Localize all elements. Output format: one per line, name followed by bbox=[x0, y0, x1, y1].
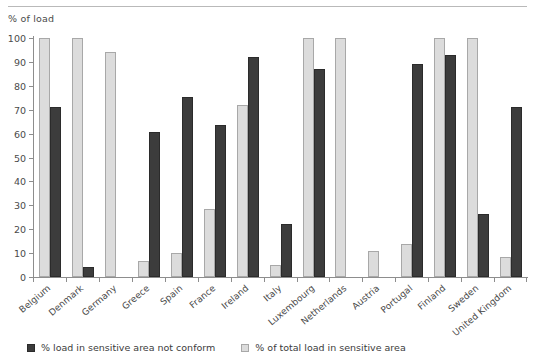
bar-total-load-sensitive-area bbox=[72, 38, 83, 277]
legend-label: % of total load in sensitive area bbox=[255, 342, 405, 353]
bar-load-not-conform bbox=[412, 64, 423, 277]
bar-total-load-sensitive-area bbox=[105, 52, 116, 277]
bar-load-not-conform bbox=[445, 55, 456, 277]
bar-total-load-sensitive-area bbox=[434, 38, 445, 277]
legend-swatch-dark bbox=[27, 344, 35, 352]
bar-group bbox=[132, 38, 165, 277]
bar-group bbox=[33, 38, 66, 277]
bar-group bbox=[165, 38, 198, 277]
bar-load-not-conform bbox=[182, 97, 193, 277]
bar-total-load-sensitive-area bbox=[237, 105, 248, 277]
bar-groups bbox=[33, 38, 527, 277]
bar-group bbox=[461, 38, 494, 277]
bar-load-not-conform bbox=[83, 267, 94, 277]
bar-group bbox=[297, 38, 330, 277]
bar-load-not-conform bbox=[511, 107, 522, 277]
bar-total-load-sensitive-area bbox=[303, 38, 314, 277]
bar-chart: % of load 1009080706050403020100 Belgium… bbox=[0, 0, 535, 361]
bar-total-load-sensitive-area bbox=[138, 261, 149, 277]
x-axis-label-cell: Greece bbox=[132, 280, 165, 335]
bar-total-load-sensitive-area bbox=[467, 38, 478, 277]
bar-total-load-sensitive-area bbox=[204, 209, 215, 277]
legend-label: % load in sensitive area not conform bbox=[41, 342, 215, 353]
bar-total-load-sensitive-area bbox=[335, 38, 346, 277]
x-axis-line bbox=[33, 277, 528, 278]
legend-item: % of total load in sensitive area bbox=[241, 342, 405, 353]
bar-total-load-sensitive-area bbox=[171, 253, 182, 277]
bar-load-not-conform bbox=[50, 107, 61, 277]
x-axis-label: Italy bbox=[261, 283, 283, 304]
y-axis-title: % of load bbox=[8, 13, 54, 24]
bar-load-not-conform bbox=[248, 57, 259, 277]
bar-group bbox=[428, 38, 461, 277]
legend-item: % load in sensitive area not conform bbox=[27, 342, 215, 353]
bar-load-not-conform bbox=[149, 132, 160, 277]
bar-group bbox=[264, 38, 297, 277]
plot-area: 1009080706050403020100 bbox=[33, 38, 527, 277]
bar-total-load-sensitive-area bbox=[500, 257, 511, 277]
bar-group bbox=[231, 38, 264, 277]
bar-load-not-conform bbox=[478, 214, 489, 277]
x-axis-label-cell: United Kingdom bbox=[494, 280, 527, 335]
x-axis-labels: BelgiumDenmarkGermanyGreeceSpainFranceIr… bbox=[33, 280, 527, 335]
top-divider bbox=[8, 6, 527, 7]
bar-group bbox=[198, 38, 231, 277]
bar-group bbox=[66, 38, 99, 277]
bar-load-not-conform bbox=[314, 69, 325, 277]
bar-total-load-sensitive-area bbox=[368, 251, 379, 277]
bar-load-not-conform bbox=[281, 224, 292, 277]
bar-load-not-conform bbox=[215, 125, 226, 277]
bar-group bbox=[329, 38, 362, 277]
bar-group bbox=[494, 38, 527, 277]
bar-total-load-sensitive-area bbox=[270, 265, 281, 277]
bar-group bbox=[362, 38, 395, 277]
bar-group bbox=[395, 38, 428, 277]
bar-group bbox=[99, 38, 132, 277]
bar-total-load-sensitive-area bbox=[401, 244, 412, 277]
legend-swatch-light bbox=[241, 344, 249, 352]
x-axis-label-cell: Ireland bbox=[231, 280, 264, 335]
chart-legend: % load in sensitive area not conform% of… bbox=[27, 342, 406, 353]
bar-total-load-sensitive-area bbox=[39, 38, 50, 277]
